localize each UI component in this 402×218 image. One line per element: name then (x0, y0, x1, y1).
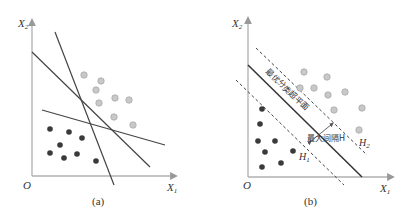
x-axis-label-b: X1 (379, 182, 390, 196)
panel-b: X2 X1 O 最优分类超平面 最大间隔H H1 H2 (b) (231, 17, 391, 208)
margin-label: 最大间隔H (307, 133, 345, 143)
caption-a: (a) (92, 195, 105, 208)
separator-line-1 (55, 32, 114, 185)
origin-label-b: O (243, 179, 251, 191)
dark-class-points-b (255, 106, 296, 170)
axes-a (32, 22, 174, 176)
separator-line-2 (32, 52, 150, 167)
y-axis-label-a: X2 (17, 17, 29, 31)
h1-label: H1 (298, 151, 310, 164)
separator-line-3 (42, 110, 165, 145)
svm-figure: X2 X1 O (a) X2 X1 O (0, 0, 402, 218)
panel-a: X2 X1 O (a) (17, 17, 177, 208)
y-axis-label-b: X2 (231, 17, 243, 31)
dark-class-points-a (47, 126, 99, 164)
origin-label-a: O (23, 179, 31, 191)
axes-b (248, 20, 391, 177)
caption-b: (b) (304, 195, 317, 208)
x-axis-label-a: X1 (166, 181, 177, 195)
